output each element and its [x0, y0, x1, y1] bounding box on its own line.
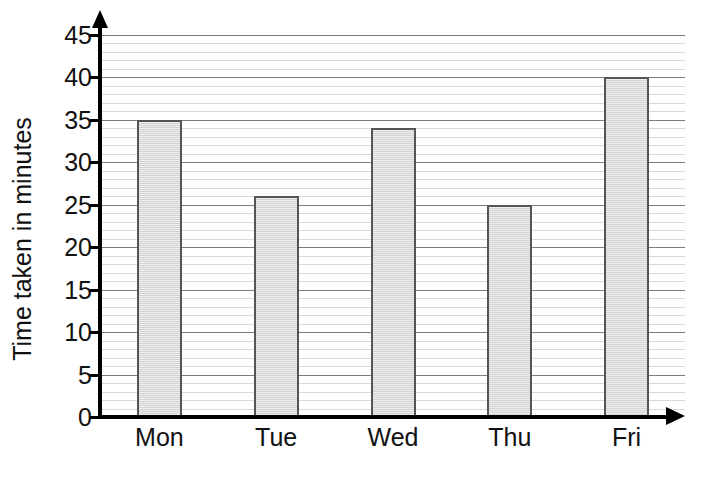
y-axis-tick-label: 10 [64, 320, 92, 345]
y-axis-tick-mark [90, 34, 100, 37]
x-axis-label-wed: Wed [368, 424, 419, 452]
x-axis-category-labels: MonTueWedThuFri [101, 424, 685, 464]
y-axis-tick-mark [90, 289, 100, 292]
y-axis-tick-label: 40 [64, 65, 92, 90]
y-axis-tick-label: 15 [64, 277, 92, 302]
y-axis-tick-mark [90, 374, 100, 377]
y-axis-tick-label: 25 [64, 192, 92, 217]
y-axis-tick-label: 30 [64, 150, 92, 175]
y-axis-tick-label: 35 [64, 107, 92, 132]
y-axis-tick-mark [90, 161, 100, 164]
y-axis-tick-mark [90, 246, 100, 249]
y-axis-tick-mark [90, 119, 100, 122]
y-axis-tick-labels: 051015202530354045 [44, 0, 96, 478]
bar-fri [604, 77, 649, 417]
bar-mon [137, 120, 182, 417]
bars-container [101, 35, 685, 417]
x-axis-line [98, 415, 668, 419]
x-axis-label-thu: Thu [488, 424, 531, 452]
bar-tue [254, 196, 299, 417]
x-axis-label-mon: Mon [135, 424, 184, 452]
y-axis-line [98, 26, 102, 419]
x-axis-right-arrow-icon [666, 407, 685, 425]
y-axis-tick-mark [90, 76, 100, 79]
x-axis-label-tue: Tue [255, 424, 297, 452]
y-axis-tick-mark [90, 416, 100, 419]
y-axis-tick-label: 20 [64, 235, 92, 260]
y-axis-tick-label: 45 [64, 23, 92, 48]
x-axis-label-fri: Fri [612, 424, 641, 452]
bar-thu [487, 205, 532, 417]
bar-wed [371, 128, 416, 417]
y-axis-title: Time taken in minutes [0, 0, 44, 478]
bar-chart: Time taken in minutes 051015202530354045… [0, 0, 727, 478]
y-axis-up-arrow-icon [92, 10, 108, 28]
y-axis-tick-mark [90, 204, 100, 207]
y-axis-tick-mark [90, 331, 100, 334]
